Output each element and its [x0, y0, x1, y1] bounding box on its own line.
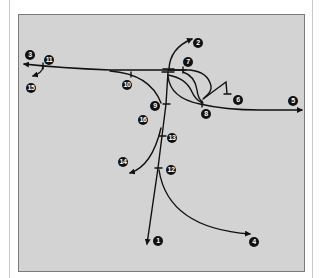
- callout-8: 8: [201, 109, 211, 119]
- callout-11: 11: [44, 55, 54, 65]
- callout-14: 14: [118, 157, 128, 167]
- upper-line-7: [168, 70, 211, 98]
- lever-6: [203, 82, 231, 99]
- callout-2: 2: [193, 38, 203, 48]
- callout-9: 9: [150, 101, 160, 111]
- curve-10: [110, 71, 161, 103]
- callout-13: 13: [167, 133, 177, 143]
- callout-6: 6: [233, 95, 243, 105]
- callout-5: 5: [288, 96, 298, 106]
- route-to-4: [159, 170, 250, 234]
- callout-10: 10: [122, 80, 132, 90]
- callout-15: 15: [26, 83, 36, 93]
- curve-b: [183, 72, 203, 103]
- callout-4: 4: [249, 237, 259, 247]
- route-to-15: [33, 67, 43, 76]
- callout-3: 3: [25, 50, 35, 60]
- route-to-14: [130, 128, 161, 173]
- callout-16: 16: [138, 115, 148, 125]
- callout-1: 1: [153, 236, 163, 246]
- callout-12: 12: [166, 165, 176, 175]
- route-to-1: [147, 72, 168, 244]
- callout-7: 7: [183, 57, 193, 67]
- route-to-5: [168, 76, 302, 110]
